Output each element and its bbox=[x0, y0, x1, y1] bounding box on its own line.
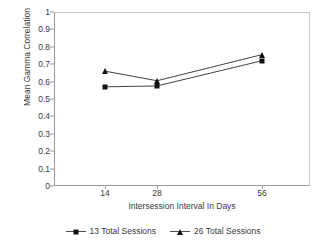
data-point bbox=[154, 78, 160, 84]
x-tick-label: 14 bbox=[100, 189, 109, 198]
y-tick-label: 0.2 bbox=[38, 147, 50, 156]
legend-swatch bbox=[170, 227, 190, 236]
y-tick-label: 0.8 bbox=[38, 43, 50, 52]
x-tick-label: 28 bbox=[152, 189, 161, 198]
data-point bbox=[103, 84, 108, 89]
y-tick-label: 1 bbox=[45, 8, 50, 17]
x-axis-title: Intersession Interval In Days bbox=[54, 201, 310, 211]
square-marker-icon bbox=[260, 58, 265, 63]
y-tick-label: 0.4 bbox=[38, 112, 50, 121]
triangle-marker-icon bbox=[259, 52, 265, 58]
legend-entry[interactable]: 13 Total Sessions bbox=[66, 227, 156, 236]
legend-entry[interactable]: 26 Total Sessions bbox=[170, 227, 260, 236]
y-tick-label: 0 bbox=[45, 182, 50, 191]
data-point bbox=[260, 58, 265, 63]
y-tick-label: 0.6 bbox=[38, 77, 50, 86]
triangle-marker-icon bbox=[177, 229, 183, 235]
y-tick-label: 0.1 bbox=[38, 164, 50, 173]
triangle-marker-icon bbox=[102, 68, 108, 74]
square-marker-icon bbox=[155, 83, 160, 88]
legend-label: 13 Total Sessions bbox=[90, 227, 156, 236]
y-tick-label: 0.5 bbox=[38, 95, 50, 104]
y-tick-label: 0.9 bbox=[38, 25, 50, 34]
triangle-marker-icon bbox=[154, 78, 160, 84]
y-tick-label: 0.3 bbox=[38, 130, 50, 139]
square-marker-icon bbox=[103, 84, 108, 89]
square-marker-icon bbox=[73, 229, 78, 234]
x-tick-label: 56 bbox=[257, 189, 266, 198]
chart-legend: 13 Total Sessions26 Total Sessions bbox=[0, 227, 326, 236]
series-markers-layer bbox=[54, 12, 310, 186]
data-point bbox=[102, 68, 108, 74]
data-point bbox=[155, 83, 160, 88]
y-tick-label: 0.7 bbox=[38, 60, 50, 69]
data-point bbox=[259, 52, 265, 58]
legend-label: 26 Total Sessions bbox=[194, 227, 260, 236]
legend-swatch bbox=[66, 227, 86, 236]
x-axis-tick-labels: 142856 bbox=[54, 189, 310, 201]
chart-figure: 00.10.20.30.40.50.60.70.80.91 Mean Gamma… bbox=[0, 0, 326, 251]
y-axis-title: Mean Gamma Correlation bbox=[22, 0, 32, 132]
